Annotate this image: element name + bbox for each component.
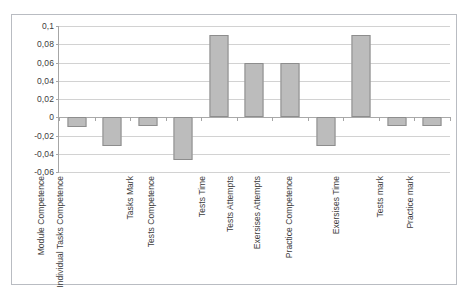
bar-slot <box>237 26 273 172</box>
bar[interactable] <box>245 63 264 118</box>
x-axis-tick-label: Tests Time <box>197 176 207 217</box>
bar-slot <box>201 26 237 172</box>
y-axis-tick-label: -0,02 <box>34 131 54 141</box>
y-axis-tick-label: 0 <box>49 112 54 122</box>
x-axis-label-slot: Tests Competence <box>165 172 201 284</box>
bar-series <box>59 26 450 172</box>
bar-slot <box>414 26 450 172</box>
y-axis-tick-label: 0,06 <box>37 58 54 68</box>
bar-slot <box>308 26 344 172</box>
y-axis-tick-label: 0,1 <box>42 21 54 31</box>
bar-slot <box>379 26 415 172</box>
bar[interactable] <box>316 117 335 145</box>
plot-area: 0,10,080,060,040,020-0,02-0,04-0,06 <box>58 26 450 172</box>
x-axis-tick-mark <box>237 117 238 121</box>
x-axis-tick-label: Tasks Mark <box>125 176 135 219</box>
bar[interactable] <box>423 117 442 126</box>
x-axis-tick-label: Tests mark <box>375 176 385 218</box>
x-axis-tick-label: Exersises Time <box>331 176 341 234</box>
x-axis-tick-mark <box>308 117 309 121</box>
bar[interactable] <box>67 117 86 127</box>
x-axis-category-labels: Module CompetenceIndividual Tasks Compet… <box>58 172 450 284</box>
bar-slot <box>343 26 379 172</box>
bar[interactable] <box>387 117 406 126</box>
bar[interactable] <box>138 117 157 126</box>
x-axis-tick-label: Exersises Attempts <box>252 176 262 249</box>
bar-slot <box>95 26 131 172</box>
bar-slot <box>130 26 166 172</box>
x-axis-tick-label: Tests Attempts <box>225 176 235 232</box>
x-axis-tick-mark <box>343 117 344 121</box>
bar[interactable] <box>281 63 300 118</box>
x-axis-tick-mark <box>272 117 273 121</box>
y-axis-tick-label: 0,02 <box>37 94 54 104</box>
y-axis-tick-label: 0,04 <box>37 76 54 86</box>
bar[interactable] <box>209 35 228 117</box>
x-axis-tick-mark <box>379 117 380 121</box>
x-axis-tick-mark <box>95 117 96 121</box>
x-axis-tick-label: Individual Tasks Competence <box>55 176 65 288</box>
y-axis-tick-label: 0,08 <box>37 39 54 49</box>
x-axis-tick-mark <box>166 117 167 121</box>
bar[interactable] <box>352 35 371 117</box>
bar[interactable] <box>174 117 193 160</box>
x-axis-tick-mark <box>450 117 451 121</box>
y-axis-tick-label: -0,04 <box>34 149 54 159</box>
bar-slot <box>272 26 308 172</box>
x-axis-tick-label: Tests Competence <box>147 176 157 247</box>
x-axis-label-slot: Exersises Time <box>342 172 378 284</box>
chart-frame: 0,10,080,060,040,020-0,02-0,04-0,06 Modu… <box>11 14 457 285</box>
x-axis-tick-label: Practice mark <box>405 176 415 229</box>
bar-slot <box>166 26 202 172</box>
x-axis-tick-mark <box>130 117 131 121</box>
x-axis-label-slot: Individual Tasks Competence <box>94 172 130 284</box>
x-axis-tick-label: Module Competence <box>36 176 46 255</box>
x-axis-tick-mark <box>59 117 60 121</box>
bar-slot <box>59 26 95 172</box>
x-axis-label-slot: Practice mark <box>413 172 449 284</box>
x-axis-tick-mark <box>414 117 415 121</box>
x-axis-tick-mark <box>201 117 202 121</box>
bar[interactable] <box>103 117 122 145</box>
x-axis-tick-label: Practice Competence <box>283 176 293 258</box>
